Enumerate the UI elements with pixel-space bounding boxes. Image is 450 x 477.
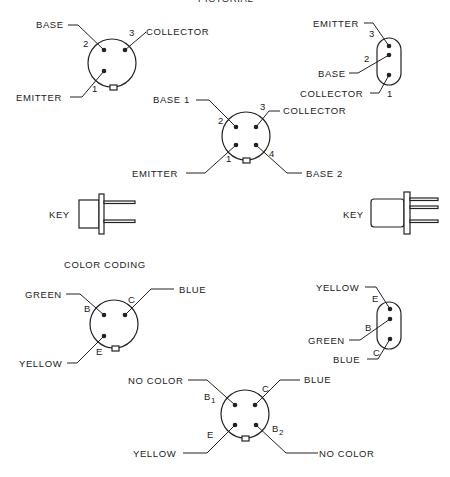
pin-number: 2 [218, 115, 224, 126]
pin-label: BASE 2 [306, 168, 343, 179]
key-label: KEY [49, 209, 70, 220]
pin-number: 3 [129, 27, 135, 38]
color-3-lead-round: GREEN B C BLUE E YELLOW [19, 284, 206, 369]
pin-number: 2 [364, 53, 370, 64]
side-view-left: KEY [49, 194, 135, 234]
pin-letter: E [207, 429, 214, 440]
color-3-lead-inline: YELLOW E B GREEN C BLUE [308, 282, 401, 365]
section-heading: COLOR CODING [64, 259, 146, 270]
pin-letter: E [372, 293, 379, 304]
pin-label: BLUE [179, 284, 206, 295]
pin-label: BLUE [333, 354, 360, 365]
page-title: PICTORIAL [198, 0, 253, 4]
pin-label: EMITTER [16, 92, 62, 103]
pin-number: 2 [83, 38, 89, 49]
pictorial-3-lead-inline: EMITTER 3 2 BASE 1 COLLECTOR [300, 18, 401, 99]
pin-number: 4 [269, 148, 275, 159]
pin-label: BASE [36, 19, 64, 30]
pin-label: YELLOW [19, 358, 62, 369]
pin-label: COLLECTOR [283, 105, 346, 116]
pin-letter: C [262, 383, 269, 394]
pin-label: YELLOW [316, 282, 359, 293]
pin-label: BASE 1 [153, 94, 190, 105]
color-4-lead-round: NO COLOR B1 C BLUE E YELLOW B2 NO COLOR [128, 374, 374, 459]
pin-letter: B1 [204, 391, 216, 405]
pin-label: BLUE [304, 374, 331, 385]
pin-number: 1 [226, 153, 232, 164]
side-view-right: KEY [343, 192, 438, 234]
pin-label: GREEN [25, 289, 62, 300]
pin-label: NO COLOR [128, 375, 183, 386]
pin-label: EMITTER [313, 18, 359, 29]
pin-letter: B [84, 303, 91, 314]
pin-letter: C [128, 294, 135, 305]
pictorial-4-lead-round: BASE 1 2 3 COLLECTOR 1 EMITTER 4 BASE 2 [132, 94, 346, 179]
pin-label: COLLECTOR [300, 88, 363, 99]
pin-number: 3 [260, 101, 266, 112]
pictorial-3-lead-round: BASE 2 3 COLLECTOR 1 EMITTER [16, 19, 209, 103]
pin-label: NO COLOR [319, 448, 374, 459]
pin-letter: C [373, 347, 380, 358]
pin-label: YELLOW [133, 448, 176, 459]
pin-letter: B2 [272, 423, 284, 437]
pin-label: COLLECTOR [146, 26, 209, 37]
pin-letter: E [96, 346, 103, 357]
pin-number: 1 [92, 83, 98, 94]
transistor-pinout-diagram: PICTORIAL BASE 2 3 COLLECTOR 1 EMITTER E… [0, 0, 450, 477]
pin-label: BASE [318, 68, 346, 79]
pin-letter: B [365, 322, 372, 333]
key-label: KEY [343, 209, 364, 220]
pin-label: EMITTER [132, 168, 178, 179]
pin-label: GREEN [308, 335, 345, 346]
pin-number: 3 [369, 28, 375, 39]
pin-number: 1 [387, 88, 393, 99]
